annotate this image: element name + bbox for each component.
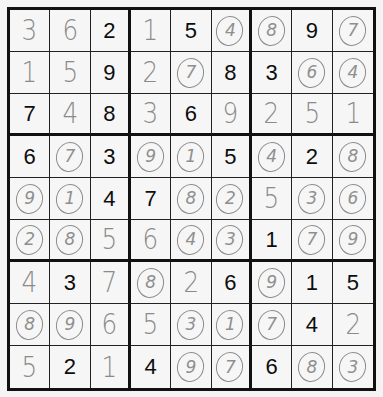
sudoku-cell-r3-c1[interactable]: 7 — [10, 94, 50, 136]
sudoku-cell-r2-c8[interactable]: 6 — [292, 52, 332, 94]
sudoku-cell-r3-c2[interactable]: 4 — [50, 94, 90, 136]
sudoku-cell-r9-c9[interactable]: 3 — [333, 346, 373, 388]
sudoku-cell-r7-c7[interactable]: 9 — [252, 262, 292, 304]
sudoku-cell-r5-c6[interactable]: 2 — [212, 178, 252, 220]
sudoku-cell-r8-c2[interactable]: 9 — [50, 304, 90, 346]
sudoku-cell-r9-c2[interactable]: 2 — [50, 346, 90, 388]
sudoku-cell-r3-c7[interactable]: 2 — [252, 94, 292, 136]
circle-mark-icon — [336, 222, 369, 257]
sudoku-cell-r9-c3[interactable]: 1 — [91, 346, 131, 388]
sudoku-cell-r8-c6[interactable]: 1 — [212, 304, 252, 346]
sudoku-cell-r2-c9[interactable]: 4 — [333, 52, 373, 94]
sudoku-cell-r2-c1[interactable]: 1 — [10, 52, 50, 94]
handwritten-digit: 1 — [101, 353, 117, 382]
sudoku-cell-r3-c4[interactable]: 3 — [131, 94, 171, 136]
sudoku-cell-r3-c8[interactable]: 5 — [292, 94, 332, 136]
given-digit: 6 — [224, 272, 236, 294]
sudoku-cell-r1-c9[interactable]: 7 — [333, 10, 373, 52]
sudoku-cell-r1-c7[interactable]: 8 — [252, 10, 292, 52]
sudoku-cell-r5-c3[interactable]: 4 — [91, 178, 131, 220]
handwritten-digit: 4 — [62, 99, 78, 128]
sudoku-cell-r4-c9[interactable]: 8 — [333, 136, 373, 178]
sudoku-cell-r6-c2[interactable]: 8 — [50, 220, 90, 262]
sudoku-cell-r6-c1[interactable]: 2 — [10, 220, 50, 262]
sudoku-cell-r9-c8[interactable]: 8 — [292, 346, 332, 388]
circle-mark-icon — [174, 222, 207, 257]
sudoku-cell-r5-c1[interactable]: 9 — [10, 178, 50, 220]
sudoku-cell-r5-c2[interactable]: 1 — [50, 178, 90, 220]
sudoku-cell-r2-c3[interactable]: 9 — [91, 52, 131, 94]
given-digit: 6 — [185, 103, 197, 125]
sudoku-cell-r5-c4[interactable]: 7 — [131, 178, 171, 220]
sudoku-cell-r8-c4[interactable]: 5 — [131, 304, 171, 346]
sudoku-cell-r2-c5[interactable]: 7 — [171, 52, 211, 94]
circle-mark-icon — [295, 222, 328, 257]
sudoku-cell-r6-c6[interactable]: 3 — [212, 220, 252, 262]
sudoku-cell-r4-c1[interactable]: 6 — [10, 136, 50, 178]
sudoku-cell-r1-c8[interactable]: 9 — [292, 10, 332, 52]
sudoku-cell-r6-c9[interactable]: 9 — [333, 220, 373, 262]
sudoku-cell-r7-c1[interactable]: 4 — [10, 262, 50, 304]
sudoku-cell-r4-c8[interactable]: 2 — [292, 136, 332, 178]
sudoku-cell-r6-c7[interactable]: 1 — [252, 220, 292, 262]
circle-mark-icon — [213, 13, 246, 48]
sudoku-cell-r3-c5[interactable]: 6 — [171, 94, 211, 136]
sudoku-cell-r5-c5[interactable]: 8 — [171, 178, 211, 220]
handwritten-digit: 3 — [22, 16, 38, 45]
sudoku-cell-r2-c6[interactable]: 8 — [212, 52, 252, 94]
sudoku-cell-r9-c6[interactable]: 7 — [212, 346, 252, 388]
circle-mark-icon — [213, 222, 246, 257]
sudoku-cell-r7-c5[interactable]: 2 — [171, 262, 211, 304]
sudoku-cell-r1-c4[interactable]: 1 — [131, 10, 171, 52]
sudoku-cell-r6-c4[interactable]: 6 — [131, 220, 171, 262]
sudoku-cell-r8-c1[interactable]: 8 — [10, 304, 50, 346]
sudoku-cell-r4-c5[interactable]: 1 — [171, 136, 211, 178]
sudoku-cell-r4-c2[interactable]: 7 — [50, 136, 90, 178]
given-digit: 9 — [103, 62, 115, 84]
sudoku-cell-r1-c2[interactable]: 6 — [50, 10, 90, 52]
sudoku-cell-r4-c4[interactable]: 9 — [131, 136, 171, 178]
sudoku-cell-r6-c5[interactable]: 4 — [171, 220, 211, 262]
sudoku-cell-r2-c2[interactable]: 5 — [50, 52, 90, 94]
sudoku-cell-r1-c3[interactable]: 2 — [91, 10, 131, 52]
sudoku-cell-r3-c6[interactable]: 9 — [212, 94, 252, 136]
sudoku-cell-r5-c9[interactable]: 6 — [333, 178, 373, 220]
sudoku-cell-r4-c6[interactable]: 5 — [212, 136, 252, 178]
sudoku-cell-r8-c7[interactable]: 7 — [252, 304, 292, 346]
sudoku-cell-r9-c4[interactable]: 4 — [131, 346, 171, 388]
handwritten-digit: 5 — [304, 99, 320, 128]
circle-mark-icon — [336, 181, 369, 216]
sudoku-cell-r8-c9[interactable]: 2 — [333, 304, 373, 346]
sudoku-cell-r9-c5[interactable]: 9 — [171, 346, 211, 388]
sudoku-cell-r3-c9[interactable]: 1 — [333, 94, 373, 136]
circle-mark-icon — [174, 181, 207, 216]
sudoku-cell-r1-c1[interactable]: 3 — [10, 10, 50, 52]
sudoku-cell-r6-c8[interactable]: 7 — [292, 220, 332, 262]
sudoku-cell-r8-c3[interactable]: 6 — [91, 304, 131, 346]
sudoku-cell-r4-c3[interactable]: 3 — [91, 136, 131, 178]
given-digit: 7 — [145, 188, 157, 210]
sudoku-cell-r8-c8[interactable]: 4 — [292, 304, 332, 346]
sudoku-cell-r5-c8[interactable]: 3 — [292, 178, 332, 220]
sudoku-cell-r1-c5[interactable]: 5 — [171, 10, 211, 52]
sudoku-cell-r5-c7[interactable]: 5 — [252, 178, 292, 220]
sudoku-cell-r2-c7[interactable]: 3 — [252, 52, 292, 94]
sudoku-cell-r7-c4[interactable]: 8 — [131, 262, 171, 304]
sudoku-cell-r4-c7[interactable]: 4 — [252, 136, 292, 178]
circle-mark-icon — [336, 139, 369, 174]
sudoku-cell-r9-c1[interactable]: 5 — [10, 346, 50, 388]
sudoku-cell-r2-c4[interactable]: 2 — [131, 52, 171, 94]
sudoku-cell-r7-c8[interactable]: 1 — [292, 262, 332, 304]
sudoku-cell-r7-c6[interactable]: 6 — [212, 262, 252, 304]
sudoku-cell-r1-c6[interactable]: 4 — [212, 10, 252, 52]
handwritten-digit: 6 — [143, 225, 159, 254]
sudoku-cell-r7-c3[interactable]: 7 — [91, 262, 131, 304]
sudoku-cell-r7-c9[interactable]: 5 — [333, 262, 373, 304]
sudoku-cell-r7-c2[interactable]: 3 — [50, 262, 90, 304]
sudoku-cell-r8-c5[interactable]: 3 — [171, 304, 211, 346]
sudoku-cell-r9-c7[interactable]: 6 — [252, 346, 292, 388]
sudoku-cell-r3-c3[interactable]: 8 — [91, 94, 131, 136]
given-digit: 9 — [306, 20, 318, 42]
sudoku-cell-r6-c3[interactable]: 5 — [91, 220, 131, 262]
given-digit: 2 — [103, 20, 115, 42]
